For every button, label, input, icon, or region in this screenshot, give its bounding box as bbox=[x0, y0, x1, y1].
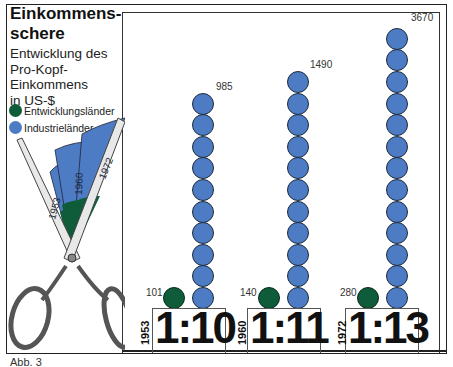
developing-value: 140 bbox=[240, 287, 257, 298]
year-label: 1960 bbox=[236, 321, 248, 345]
industrial-circle bbox=[287, 71, 309, 93]
industrial-circle bbox=[192, 244, 214, 266]
ratio-label: 1:13 bbox=[348, 306, 428, 350]
industrial-circle bbox=[386, 244, 408, 266]
svg-text:1960: 1960 bbox=[73, 172, 85, 195]
industrial-circle bbox=[287, 136, 309, 158]
industrial-circle bbox=[287, 201, 309, 223]
industrial-circle bbox=[386, 179, 408, 201]
industrial-circle bbox=[386, 71, 408, 93]
ratio-label: 1:10 bbox=[155, 306, 235, 350]
ratio-label: 1:11 bbox=[250, 306, 328, 350]
industrial-circle bbox=[192, 201, 214, 223]
year-label: 1953 bbox=[139, 321, 151, 345]
industrial-circle bbox=[287, 93, 309, 115]
industrial-circle bbox=[287, 244, 309, 266]
industrial-circle bbox=[386, 28, 408, 50]
industrial-value: 985 bbox=[216, 81, 233, 92]
developing-value: 101 bbox=[146, 287, 163, 298]
industrial-circle bbox=[386, 136, 408, 158]
developing-value: 280 bbox=[340, 287, 357, 298]
industrial-circle bbox=[386, 201, 408, 223]
industrial-value: 3670 bbox=[411, 12, 433, 23]
scissors-illustration-icon: 1953 1960 1972 bbox=[0, 0, 125, 352]
industrial-circle bbox=[192, 179, 214, 201]
year-label: 1972 bbox=[336, 321, 348, 345]
industrial-circle bbox=[386, 93, 408, 115]
figure-caption: Abb. 3 bbox=[10, 356, 42, 367]
industrial-value: 1490 bbox=[310, 59, 332, 70]
industrial-circle bbox=[192, 93, 214, 115]
industrial-circle bbox=[287, 179, 309, 201]
industrial-circle bbox=[192, 136, 214, 158]
